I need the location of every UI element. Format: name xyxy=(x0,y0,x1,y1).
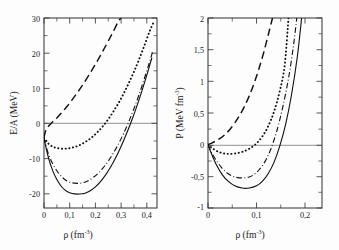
right-y-ticklabel-minus1: -1 xyxy=(197,203,204,212)
right-curve-dashdot xyxy=(208,18,297,178)
right-panel-pressure: 2 1,5 1 0,5 0 -0,5 -1 0 0,1 0,2 P (MeV f… xyxy=(0,0,339,250)
right-y-axis-title-main: P (MeV fm xyxy=(174,95,186,139)
right-y-ticklabels: 2 1,5 1 0,5 0 -0,5 -1 xyxy=(191,15,204,213)
right-curves-group xyxy=(208,18,302,188)
right-y-ticklabel-05: 0,5 xyxy=(194,110,204,119)
right-x-major-ticks xyxy=(208,18,305,208)
right-x-axis-title: ρ (fm-3) xyxy=(235,229,264,241)
right-y-axis-title-tail: ) xyxy=(174,87,186,90)
figure-container: 30 20 10 0 -10 -20 0 0,1 0,2 0,3 0,4 E/A… xyxy=(0,0,339,250)
right-x-ticklabel-0: 0 xyxy=(206,211,210,220)
right-x-ticklabels: 0 0,1 0,2 xyxy=(206,211,310,220)
right-curve-solid xyxy=(208,18,302,188)
right-x-ticklabel-01: 0,1 xyxy=(251,211,261,220)
right-y-ticklabel-1: 1 xyxy=(200,78,204,87)
right-x-axis-title-main: ρ (fm xyxy=(235,229,257,241)
svg-text:ρ (fm-3): ρ (fm-3) xyxy=(235,229,264,241)
right-y-ticklabel-2: 2 xyxy=(200,15,204,24)
right-y-axis-title: P (MeV fm-3) xyxy=(174,87,186,138)
right-y-ticklabel-0: 0 xyxy=(200,141,204,150)
svg-text:P (MeV fm-3): P (MeV fm-3) xyxy=(174,87,186,138)
right-x-ticklabel-02: 0,2 xyxy=(300,211,310,220)
right-y-minor-ticks xyxy=(208,34,322,193)
right-x-axis-title-tail: ) xyxy=(261,229,264,241)
right-curve-dashed xyxy=(208,18,273,145)
right-curve-dotted xyxy=(208,18,289,154)
right-y-ticklabel-minus05: -0,5 xyxy=(191,173,204,182)
right-y-ticklabel-15: 1,5 xyxy=(194,46,204,55)
right-panel-svg: 2 1,5 1 0,5 0 -0,5 -1 0 0,1 0,2 P (MeV f… xyxy=(0,0,339,250)
